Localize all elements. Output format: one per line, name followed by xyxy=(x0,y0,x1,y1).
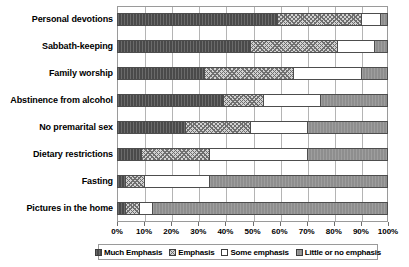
legend-item[interactable]: Emphasis xyxy=(169,248,214,257)
y-axis-labels: Personal devotionsSabbath-keepingFamily … xyxy=(0,6,113,222)
legend-swatch-icon xyxy=(296,249,303,256)
chart-legend: Much EmphasisEmphasisSome emphasisLittle… xyxy=(98,244,378,260)
bar-row xyxy=(117,141,388,168)
x-axis-tick xyxy=(361,222,362,226)
bar-segment[interactable] xyxy=(320,94,388,107)
x-axis-tick-label: 30% xyxy=(190,227,206,236)
bar-segment[interactable] xyxy=(361,67,388,80)
legend-swatch-icon xyxy=(169,249,176,256)
x-axis-tick xyxy=(388,222,389,226)
bar-row xyxy=(117,33,388,60)
bar-segment[interactable] xyxy=(361,13,380,26)
bar-segment[interactable] xyxy=(152,202,388,215)
bar-segment[interactable] xyxy=(204,67,293,80)
stacked-bar[interactable] xyxy=(117,40,388,53)
bar-segment[interactable] xyxy=(117,202,125,215)
bar-segment[interactable] xyxy=(263,94,320,107)
y-axis-label: Sabbath-keeping xyxy=(0,33,113,60)
bar-row xyxy=(117,168,388,195)
x-axis-tick-label: 60% xyxy=(272,227,288,236)
bar-segment[interactable] xyxy=(117,94,223,107)
y-axis-label: No premarital sex xyxy=(0,114,113,141)
bar-segment[interactable] xyxy=(337,40,375,53)
bar-row xyxy=(117,6,388,33)
x-axis-tick xyxy=(253,222,254,226)
x-axis-tick xyxy=(171,222,172,226)
x-axis-tick-label: 90% xyxy=(353,227,369,236)
bar-segment[interactable] xyxy=(293,67,361,80)
bar-segment[interactable] xyxy=(125,175,144,188)
x-axis-tick xyxy=(144,222,145,226)
bar-segment[interactable] xyxy=(125,202,139,215)
bar-segment[interactable] xyxy=(307,148,388,161)
bar-segment[interactable] xyxy=(209,148,307,161)
bar-row xyxy=(117,60,388,87)
bar-segment[interactable] xyxy=(117,175,125,188)
x-axis-ticks xyxy=(117,222,388,226)
x-axis-tick xyxy=(334,222,335,226)
y-axis-label: Family worship xyxy=(0,60,113,87)
bar-segment[interactable] xyxy=(144,175,209,188)
bars-container xyxy=(117,6,388,222)
legend-label: Emphasis xyxy=(178,248,214,257)
bar-row xyxy=(117,195,388,222)
bar-segment[interactable] xyxy=(374,40,388,53)
x-axis-tick-label: 40% xyxy=(217,227,233,236)
bar-segment[interactable] xyxy=(117,40,250,53)
x-axis-tick-label: 80% xyxy=(326,227,342,236)
stacked-bar[interactable] xyxy=(117,175,388,188)
x-axis-tick-labels: 0%10%20%30%40%50%60%70%80%90%100% xyxy=(117,227,388,239)
bar-segment[interactable] xyxy=(141,148,209,161)
bar-segment[interactable] xyxy=(277,13,361,26)
y-axis-label: Pictures in the home xyxy=(0,195,113,222)
stacked-bar[interactable] xyxy=(117,202,388,215)
y-axis-label: Fasting xyxy=(0,168,113,195)
bar-segment[interactable] xyxy=(185,121,250,134)
bar-segment[interactable] xyxy=(223,94,264,107)
bar-row xyxy=(117,114,388,141)
y-axis-label: Personal devotions xyxy=(0,6,113,33)
stacked-bar-chart: Personal devotionsSabbath-keepingFamily … xyxy=(0,0,409,267)
stacked-bar[interactable] xyxy=(117,94,388,107)
stacked-bar[interactable] xyxy=(117,121,388,134)
x-axis-tick-label: 50% xyxy=(244,227,260,236)
x-axis-tick-label: 70% xyxy=(299,227,315,236)
legend-item[interactable]: Much Emphasis xyxy=(95,248,162,257)
bar-segment[interactable] xyxy=(209,175,388,188)
bar-segment[interactable] xyxy=(117,13,277,26)
x-axis-tick xyxy=(280,222,281,226)
y-axis-label: Dietary restrictions xyxy=(0,141,113,168)
y-axis-label: Abstinence from alcohol xyxy=(0,87,113,114)
stacked-bar[interactable] xyxy=(117,67,388,80)
x-axis-tick xyxy=(117,222,118,226)
x-axis-tick-label: 10% xyxy=(136,227,152,236)
stacked-bar[interactable] xyxy=(117,13,388,26)
x-axis-tick xyxy=(225,222,226,226)
legend-label: Much Emphasis xyxy=(104,248,162,257)
x-axis-tick-label: 0% xyxy=(111,227,123,236)
x-axis-tick xyxy=(198,222,199,226)
legend-label: Little or no emphasis xyxy=(305,248,381,257)
legend-swatch-icon xyxy=(221,249,228,256)
bar-segment[interactable] xyxy=(117,121,185,134)
legend-swatch-icon xyxy=(95,249,102,256)
x-axis-tick-label: 20% xyxy=(163,227,179,236)
legend-item[interactable]: Some emphasis xyxy=(221,248,288,257)
legend-item[interactable]: Little or no emphasis xyxy=(296,248,381,257)
legend-label: Some emphasis xyxy=(230,248,288,257)
bar-row xyxy=(117,87,388,114)
x-axis-tick-label: 100% xyxy=(378,227,398,236)
bar-segment[interactable] xyxy=(117,148,141,161)
bar-segment[interactable] xyxy=(307,121,388,134)
stacked-bar[interactable] xyxy=(117,148,388,161)
bar-segment[interactable] xyxy=(117,67,204,80)
bar-segment[interactable] xyxy=(250,40,337,53)
bar-segment[interactable] xyxy=(139,202,153,215)
bar-segment[interactable] xyxy=(380,13,388,26)
x-axis-tick xyxy=(307,222,308,226)
bar-segment[interactable] xyxy=(250,121,307,134)
